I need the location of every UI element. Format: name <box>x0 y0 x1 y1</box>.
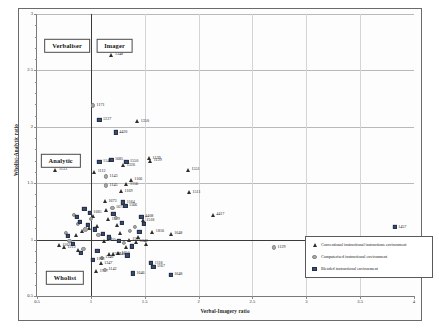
triangle-marker-icon <box>135 119 139 123</box>
data-point-label: 4417 <box>216 212 224 216</box>
y-axis-minor-tick <box>35 273 37 274</box>
square-marker-icon <box>393 225 397 229</box>
legend-item-conventional[interactable]: Conventional instructional instructions … <box>308 239 430 251</box>
y-axis-minor-tick <box>35 251 37 252</box>
triangle-marker-icon <box>74 233 78 237</box>
circle-marker-icon <box>91 103 95 107</box>
data-point-label: 1140 <box>117 252 125 256</box>
y-axis-minor-tick <box>35 37 37 38</box>
x-axis-tick-mark <box>91 296 92 299</box>
y-axis-tick-mark <box>34 183 37 184</box>
triangle-marker-icon <box>150 230 154 234</box>
circle-marker-icon <box>310 255 319 259</box>
square-marker-icon <box>310 267 319 271</box>
data-point-label: 1129 <box>154 158 162 162</box>
square-marker-icon <box>124 160 128 164</box>
square-marker-icon <box>131 271 135 275</box>
y-axis-minor-tick <box>35 59 37 60</box>
circle-marker-icon <box>89 217 93 221</box>
square-marker-icon <box>79 251 83 255</box>
square-marker-icon <box>121 200 125 204</box>
circle-marker-icon <box>122 241 126 245</box>
y-axis-minor-tick <box>35 25 37 26</box>
triangle-marker-icon <box>119 189 123 193</box>
y-axis-tick-mark <box>34 127 37 128</box>
y-axis-minor-tick <box>35 240 37 241</box>
legend-label-conventional: Conventional instructional instructions … <box>321 243 406 247</box>
data-point-label: 4408 <box>145 214 153 218</box>
square-marker-icon <box>168 272 172 276</box>
triangle-marker-icon <box>186 168 190 172</box>
triangle-marker-icon <box>127 238 131 242</box>
triangle-marker-icon <box>103 199 107 203</box>
x-axis-tick-mark <box>414 296 415 299</box>
y-axis-minor-tick <box>35 194 37 195</box>
legend-item-blended[interactable]: Blended instructional environment <box>308 263 430 275</box>
y-axis-minor-tick <box>35 149 37 150</box>
data-point-label: 1143 <box>110 174 118 178</box>
data-point-label: 1169 <box>125 189 133 193</box>
data-point-label: 1816 <box>156 229 164 233</box>
triangle-marker-icon <box>99 261 103 265</box>
x-axis-title: Verbal-Imagery ratio <box>36 308 414 314</box>
square-marker-icon <box>142 222 146 226</box>
y-axis-minor-tick <box>35 82 37 83</box>
data-point-label: 1103 <box>97 257 105 261</box>
gridline-vertical <box>199 14 200 296</box>
y-axis-minor-tick <box>35 104 37 105</box>
chart-screenshot: Wholist-Analytic ratio Verbal-Imagery ra… <box>0 0 439 332</box>
data-point-label: 1550 <box>130 159 138 163</box>
circle-marker-icon <box>83 227 87 231</box>
quadrant-label-imager: Imager <box>96 38 133 52</box>
y-axis-minor-tick <box>35 116 37 117</box>
triangle-marker-icon <box>53 168 57 172</box>
triangle-marker-icon <box>169 232 173 236</box>
gridline-horizontal <box>37 70 414 71</box>
circle-marker-icon <box>272 245 276 249</box>
square-marker-icon <box>151 265 155 269</box>
x-axis-tick-mark <box>360 296 361 299</box>
triangle-marker-icon <box>62 245 66 249</box>
square-marker-icon <box>78 219 82 223</box>
x-axis-tick-mark <box>252 296 253 299</box>
circle-marker-icon <box>110 206 114 210</box>
square-marker-icon <box>91 258 95 262</box>
triangle-marker-icon <box>57 243 61 247</box>
y-axis-minor-tick <box>35 217 37 218</box>
data-point-label: 1457 <box>398 225 406 229</box>
square-marker-icon <box>97 118 101 122</box>
square-marker-icon <box>111 212 115 216</box>
circle-marker-icon <box>128 228 132 232</box>
triangle-marker-icon <box>115 223 119 227</box>
gridline-horizontal <box>37 127 414 128</box>
data-point-label: 1511 <box>192 190 200 194</box>
y-axis-minor-tick <box>35 161 37 162</box>
y-axis-minor-tick <box>35 172 37 173</box>
y-axis-title: Wholist-Analytic ratio <box>13 124 19 176</box>
gridline-horizontal <box>37 14 414 15</box>
square-marker-icon <box>139 215 143 219</box>
triangle-marker-icon <box>94 269 98 273</box>
y-axis-minor-tick <box>35 285 37 286</box>
y-axis-minor-tick <box>35 138 37 139</box>
legend-item-computerised[interactable]: Computerised instructional environment <box>308 251 430 263</box>
square-marker-icon <box>117 239 121 243</box>
square-marker-icon <box>75 215 79 219</box>
data-point-label: 1646 <box>136 271 144 275</box>
circle-marker-icon <box>104 174 108 178</box>
data-point-label: 1350 <box>141 119 149 123</box>
x-axis-tick-mark <box>145 296 146 299</box>
y-axis-minor-tick <box>35 262 37 263</box>
triangle-marker-icon <box>134 240 138 244</box>
gridline-horizontal <box>37 183 414 184</box>
quadrant-label-wholist: Wholist <box>46 271 84 285</box>
reference-line-vertical <box>91 14 92 296</box>
y-axis-minor-tick <box>35 206 37 207</box>
data-point-label: 1164 <box>127 200 135 204</box>
square-marker-icon <box>120 221 124 225</box>
square-marker-icon <box>86 223 90 227</box>
y-axis-tick-mark <box>34 70 37 71</box>
triangle-marker-icon <box>124 245 128 249</box>
gridline-vertical <box>145 14 146 296</box>
quadrant-label-analytic: Analytic <box>41 153 81 167</box>
